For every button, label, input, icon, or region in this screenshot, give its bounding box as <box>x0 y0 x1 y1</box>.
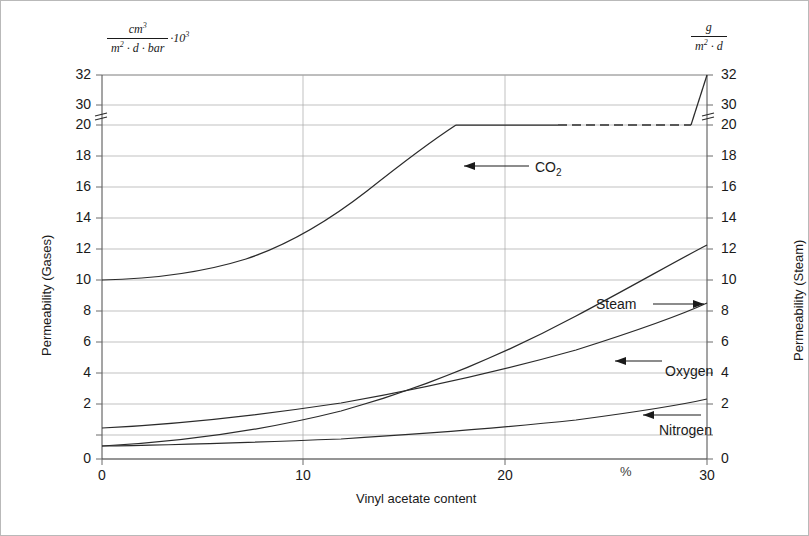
left-tick-label-18: 18 <box>53 147 91 163</box>
right-tick-label-16: 16 <box>721 178 737 194</box>
axes <box>102 75 707 459</box>
series-curve-oxygen <box>102 303 707 428</box>
gridlines-vertical <box>303 75 505 459</box>
left-tick-label-20: 20 <box>53 116 91 132</box>
right-tick-label-32: 32 <box>721 66 737 82</box>
chart-figure: cm3 m2 · d · bar ·103 g m2 · d <box>0 0 809 536</box>
right-tick-label-6: 6 <box>721 333 729 349</box>
co2-arrow-icon <box>464 162 529 170</box>
x-tick-label-0: 0 <box>82 467 122 483</box>
x-axis-title: Vinyl acetate content <box>356 491 476 506</box>
left-tick-label-16: 16 <box>53 178 91 194</box>
series-label-nitrogen: Nitrogen <box>659 422 712 438</box>
left-tick-label-12: 12 <box>53 240 91 256</box>
right-tick-marks <box>707 75 713 459</box>
left-tick-label-10: 10 <box>53 271 91 287</box>
right-tick-label-18: 18 <box>721 147 737 163</box>
x-tick-marks <box>102 459 707 465</box>
right-tick-label-12: 12 <box>721 240 737 256</box>
axis-break-marks <box>95 113 714 120</box>
left-tick-label-32: 32 <box>53 66 91 82</box>
left-tick-label-4: 4 <box>53 364 91 380</box>
right-tick-label-10: 10 <box>721 271 737 287</box>
left-axis-title: Permeability (Gases) <box>39 235 54 356</box>
series-label-co2: CO2 <box>535 159 562 178</box>
right-axis-title: Permeability (Steam) <box>791 240 806 361</box>
x-tick-label-20: 20 <box>485 467 525 483</box>
series-label-oxygen: Oxygen <box>665 363 713 379</box>
right-tick-label-2: 2 <box>721 395 729 411</box>
series-label-steam: Steam <box>596 296 636 312</box>
right-tick-label-0: 0 <box>721 450 729 466</box>
right-tick-label-14: 14 <box>721 209 737 225</box>
left-tick-label-6: 6 <box>53 333 91 349</box>
x-axis-unit-percent: % <box>620 464 632 479</box>
x-tick-label-10: 10 <box>283 467 323 483</box>
right-tick-label-8: 8 <box>721 302 729 318</box>
series-curve-steam <box>102 245 707 446</box>
steam-arrow-icon <box>653 300 704 308</box>
plot-canvas <box>1 1 809 536</box>
oxygen-arrow-icon <box>615 357 662 365</box>
left-tick-label-8: 8 <box>53 302 91 318</box>
series-curve-nitrogen <box>102 399 707 446</box>
gridlines-horizontal <box>102 75 707 459</box>
left-tick-marks <box>96 75 102 459</box>
left-tick-label-0: 0 <box>53 450 91 466</box>
right-tick-label-30: 30 <box>721 96 737 112</box>
right-tick-label-4: 4 <box>721 364 729 380</box>
x-tick-label-30: 30 <box>687 467 727 483</box>
right-tick-label-20: 20 <box>721 116 737 132</box>
left-tick-label-14: 14 <box>53 209 91 225</box>
left-tick-label-30: 30 <box>53 96 91 112</box>
nitrogen-arrow-icon <box>643 411 701 419</box>
left-tick-label-2: 2 <box>53 395 91 411</box>
